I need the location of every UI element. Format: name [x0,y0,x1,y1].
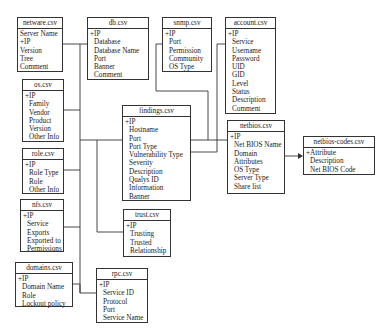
table-role[interactable]: role.csv +IP Role Type Role Other Info [22,148,64,194]
field: Service ID [99,289,145,297]
table-title: snmp.csv [163,18,211,29]
field: Port Type [125,143,188,151]
field: Version [20,47,60,55]
field: Relationship [126,247,168,255]
field: Banner [125,193,188,201]
field: Comment [228,105,273,113]
field-list: +IP Database Database Name Port Banner C… [88,29,148,81]
field: Trusting [126,230,168,238]
table-title: os.csv [23,80,63,91]
field: Permissions [23,245,61,253]
field: +IP [25,161,61,169]
connector-rpc [80,284,96,293]
field: +IP [23,212,61,220]
field: Vendor [25,109,61,117]
field: Domain Name [18,283,70,291]
field: Community [165,55,209,63]
field: OS Type [230,166,282,174]
table-netbios[interactable]: netbios.csv +IP Net BIOS Name Domain Att… [227,120,285,194]
table-rpc[interactable]: rpc.csv +IP Service ID Protocol Port Ser… [96,268,148,323]
field: Service [228,38,273,46]
field: Lockout policy [18,300,70,308]
field: Other Info [25,133,61,141]
field: Information [125,184,188,192]
field: Description [125,168,188,176]
field: Hostname [125,126,188,134]
table-title: rpc.csv [97,269,147,280]
field-list: +IP Service Username Password UID GID Le… [226,29,275,114]
field: Description [228,96,273,104]
table-netbios-codes[interactable]: netbios-codes.csv +Attribute Description… [303,136,375,175]
field: Port [90,55,146,63]
field: Port [99,306,145,314]
field: Port [165,38,209,46]
field: Status [228,88,273,96]
field: +IP [20,38,60,46]
field-list: +IP Trusting Trusted Relationship [124,221,170,256]
field: Service Name [99,314,145,322]
field: Service [23,220,61,228]
field: Share list [230,183,282,191]
field-list: +Attribute Description Net BIOS Code [304,148,374,175]
table-findings[interactable]: findings.csv +IP Hostname Port Port Type… [122,105,191,201]
field: Role Type [25,169,61,177]
table-db[interactable]: db.csv +IP Database Database Name Port B… [87,17,149,80]
field: +IP [165,30,209,38]
table-nfs[interactable]: nfs.csv +IP Service Exports Exported to … [20,199,64,252]
field-list: Server Name +IP Version Tree Comment [18,29,62,72]
field-list: +IP Service Exports Exported to Permissi… [21,211,63,254]
field: +IP [25,92,61,100]
table-title: nfs.csv [21,200,63,211]
table-title: netware.csv [18,18,62,29]
field: Severity [125,159,188,167]
field: Port [125,135,188,143]
table-title: account.csv [226,18,275,29]
field: +IP [18,275,70,283]
field: +IP [230,133,282,141]
field: Role [25,178,61,186]
field: Product [25,117,61,125]
table-title: trust.csv [124,210,170,221]
table-snmp[interactable]: snmp.csv +IP Port Permission Community O… [162,17,212,72]
field: +IP [99,281,145,289]
field-list: +IP Hostname Port Port Type Vulnerabilit… [123,117,190,202]
field: Permission [165,47,209,55]
table-account[interactable]: account.csv +IP Service Username Passwor… [225,17,276,114]
table-domains[interactable]: domains.csv +IP Domain Name Role Lockout… [15,262,73,307]
table-trust[interactable]: trust.csv +IP Trusting Trusted Relations… [123,209,171,257]
field: Comment [90,71,146,79]
field: Other Info [25,186,61,194]
table-title: db.csv [88,18,148,29]
field: +Attribute [306,149,372,157]
field: Domain [230,150,282,158]
field: Comment [20,63,60,71]
table-netware[interactable]: netware.csv Server Name +IP Version Tree… [17,17,63,72]
field: Exports [23,229,61,237]
field: Username [228,47,273,55]
field: GID [228,71,273,79]
field: +IP [126,222,168,230]
field: +IP [125,118,188,126]
field: Database [90,38,146,46]
field: Server Name [20,30,60,38]
table-title: findings.csv [123,106,190,117]
field: Version [25,125,61,133]
field: Net BIOS Code [306,166,372,174]
table-title: netbios-codes.csv [304,137,374,148]
field: Family [25,100,61,108]
field: Exported to [23,237,61,245]
field: Attributes [230,158,282,166]
connector-trust [97,140,123,232]
field-list: +IP Domain Name Role Lockout policy [16,274,72,309]
table-title: netbios.csv [228,121,284,132]
field: Qualys ID [125,176,188,184]
field: Vulnerability Type [125,151,188,159]
field: Level [228,80,273,88]
field: UID [228,63,273,71]
field: Description [306,157,372,165]
field: Net BIOS Name [230,141,282,149]
field-list: +IP Net BIOS Name Domain Attributes OS T… [228,132,284,192]
field: OS Type [165,63,209,71]
table-os[interactable]: os.csv +IP Family Vendor Product Version… [22,79,64,142]
field-list: +IP Service ID Protocol Port Service Nam… [97,280,147,323]
